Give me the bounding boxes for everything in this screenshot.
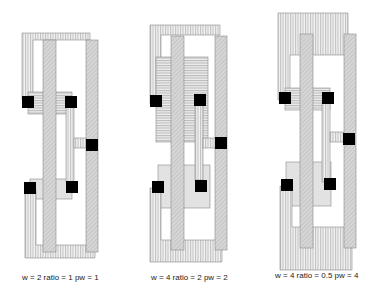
contact bbox=[281, 179, 293, 191]
poly-gate bbox=[300, 34, 313, 248]
metal-output-link bbox=[330, 132, 344, 142]
contact bbox=[22, 96, 34, 108]
contact bbox=[152, 181, 164, 193]
layout-2-caption: w = 4 ratio = 2 pw = 2 bbox=[151, 273, 228, 282]
poly-gate bbox=[171, 36, 184, 250]
contact bbox=[86, 139, 98, 151]
layout-3-caption: w = 4 ratio = 0.5 pw = 4 bbox=[275, 271, 358, 280]
layout-3 bbox=[278, 13, 356, 270]
layout-1 bbox=[22, 33, 98, 258]
contact bbox=[343, 133, 355, 145]
layout-diagram bbox=[0, 0, 382, 300]
contact bbox=[150, 95, 162, 107]
contact bbox=[66, 181, 78, 193]
metal-bottom-u bbox=[25, 190, 95, 258]
contact bbox=[195, 180, 207, 192]
metal-drain-link bbox=[322, 102, 330, 182]
contact bbox=[324, 178, 336, 190]
contact bbox=[215, 137, 227, 149]
contact bbox=[194, 94, 206, 106]
poly-gate bbox=[43, 40, 56, 252]
contact bbox=[24, 182, 36, 194]
layout-1-caption: w = 2 ratio = 1 pw = 1 bbox=[22, 273, 99, 282]
layout-2 bbox=[150, 25, 227, 262]
metal-drain-link bbox=[195, 105, 203, 180]
contact bbox=[322, 92, 334, 104]
contact bbox=[65, 96, 77, 108]
contact bbox=[279, 92, 291, 104]
metal-drain-link bbox=[66, 107, 74, 182]
